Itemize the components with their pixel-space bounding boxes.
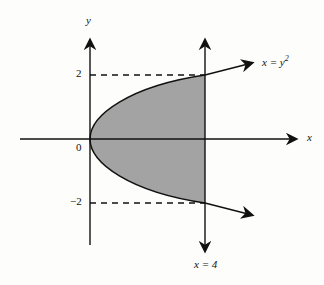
y-axis-label: y [86, 14, 91, 26]
y-tick-2: 2 [76, 67, 82, 79]
x-axis-label: x [307, 131, 312, 143]
parabola-equation-label: x = y2 [262, 54, 289, 68]
y-tick-neg2: −2 [70, 195, 82, 207]
diagram-svg [0, 0, 324, 285]
parabola-equation-exponent: 2 [285, 54, 289, 63]
origin-label: 0 [76, 141, 82, 153]
vertical-line-equation-label: x = 4 [194, 258, 217, 270]
parabola-equation-lhs: x = y [262, 56, 285, 68]
diagram-canvas: y x 0 2 −2 x = y2 x = 4 [0, 0, 324, 285]
